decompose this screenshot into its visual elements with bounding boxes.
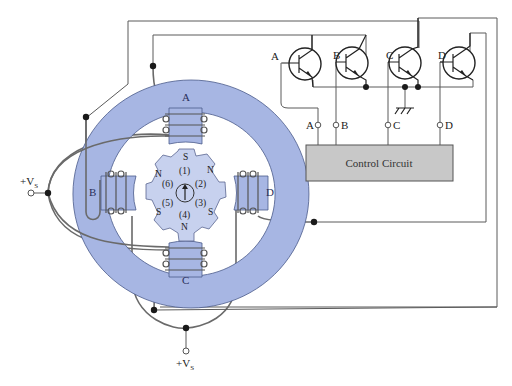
node-supply-bottom bbox=[183, 325, 189, 331]
control-circuit-label: Control Circuit bbox=[346, 157, 413, 169]
transistor-c: C bbox=[386, 18, 421, 87]
transistor-b-label: B bbox=[333, 49, 340, 61]
transistor-d-label: D bbox=[438, 49, 446, 61]
emitter-bus bbox=[313, 80, 473, 87]
node-bus-ground bbox=[402, 84, 408, 90]
node-coil-a bbox=[150, 63, 156, 69]
control-input-c[interactable] bbox=[385, 122, 391, 128]
transistor-a-body bbox=[289, 48, 321, 80]
tooth-1: (1) bbox=[179, 166, 190, 177]
coil-d: D bbox=[234, 171, 274, 214]
node-supply-left bbox=[45, 190, 51, 196]
transistor-b: B bbox=[333, 35, 368, 87]
control-input-a-label: A bbox=[306, 119, 314, 131]
control-input-b[interactable] bbox=[333, 122, 339, 128]
transistor-c-body bbox=[389, 47, 421, 79]
coil-c-label: C bbox=[182, 274, 189, 286]
supply-bottom-terminal[interactable] bbox=[183, 348, 189, 354]
rotor-pole-lower-right: S bbox=[208, 207, 213, 217]
wire-base-d bbox=[440, 62, 445, 145]
node-coil-d bbox=[311, 219, 317, 225]
coil-d-core bbox=[234, 176, 268, 210]
rotor-pole-lower-left: S bbox=[156, 207, 161, 217]
supply-left-label: +VS bbox=[20, 175, 38, 190]
transistor-b-body bbox=[336, 47, 368, 79]
tooth-2: (2) bbox=[195, 179, 206, 190]
rotor-pole-bottom: N bbox=[181, 222, 188, 232]
coil-a-label: A bbox=[182, 91, 190, 103]
node-coil-b bbox=[83, 114, 89, 120]
control-input-c-label: C bbox=[393, 119, 400, 131]
stepper-motor-diagram: A B C D S N S N S N (1) bbox=[0, 0, 512, 386]
rotor: S N S N S N (1) (2) (3) (4) (5) (6) bbox=[146, 149, 226, 241]
wire-base-c bbox=[388, 62, 390, 145]
rotor-pole-upper-right: N bbox=[207, 165, 214, 175]
tooth-3: (3) bbox=[195, 198, 206, 209]
ground-icon bbox=[395, 108, 414, 114]
control-input-a[interactable] bbox=[315, 122, 321, 128]
supply-left-terminal[interactable] bbox=[28, 190, 34, 196]
control-circuit: Control Circuit bbox=[306, 145, 453, 181]
node-coil-c bbox=[151, 307, 157, 313]
control-input-b-label: B bbox=[341, 119, 348, 131]
transistor-d-body bbox=[443, 47, 475, 79]
tooth-5: (5) bbox=[162, 198, 173, 209]
tooth-6: (6) bbox=[162, 179, 173, 190]
control-input-d[interactable] bbox=[437, 122, 443, 128]
control-inputs: A B C D bbox=[306, 119, 453, 131]
transistor-c-label: C bbox=[386, 49, 393, 61]
rotor-pole-upper-left: N bbox=[155, 169, 162, 179]
coil-b-label: B bbox=[89, 186, 96, 198]
coil-d-label: D bbox=[266, 186, 274, 198]
transistor-a-label: A bbox=[271, 50, 279, 62]
control-input-d-label: D bbox=[445, 119, 453, 131]
supply-bottom-label: +VS bbox=[176, 357, 194, 372]
tooth-4: (4) bbox=[179, 210, 190, 221]
wire-base-b bbox=[336, 62, 338, 145]
transistor-a: A bbox=[271, 35, 321, 87]
transistor-d: D bbox=[438, 33, 475, 80]
rotor-pole-top: S bbox=[183, 152, 188, 162]
supply-bottom: +VS bbox=[176, 348, 194, 372]
